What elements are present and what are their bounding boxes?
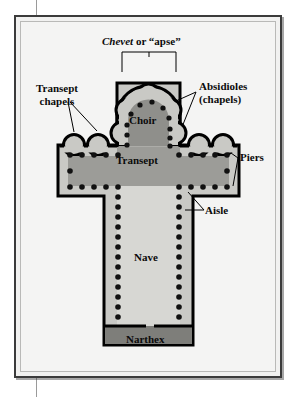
- label-absidioles: Absidioles (chapels): [199, 80, 247, 105]
- label-transept-chapels-line1: Transept: [36, 82, 78, 95]
- label-transept: Transept: [116, 155, 158, 167]
- label-transept-chapels-line2: chapels: [36, 95, 78, 108]
- label-nave: Nave: [134, 252, 158, 264]
- figure-frame: [14, 15, 282, 378]
- label-narthex: Narthex: [126, 334, 165, 346]
- label-chevet: Chevet or “apse”: [102, 36, 181, 48]
- label-absidioles-line1: Absidioles: [199, 80, 247, 93]
- figure-page: Chevet or “apse” Transept chapels Absidi…: [0, 0, 298, 397]
- label-transept-chapels: Transept chapels: [36, 82, 78, 107]
- label-absidioles-line2: (chapels): [199, 93, 247, 106]
- label-choir: Choir: [129, 115, 157, 127]
- figure-inner-border: [20, 21, 276, 372]
- label-piers: Piers: [240, 152, 264, 164]
- label-chevet-italic: Chevet: [102, 35, 133, 47]
- label-chevet-rest: or “apse”: [133, 35, 180, 47]
- label-aisle: Aisle: [205, 205, 228, 217]
